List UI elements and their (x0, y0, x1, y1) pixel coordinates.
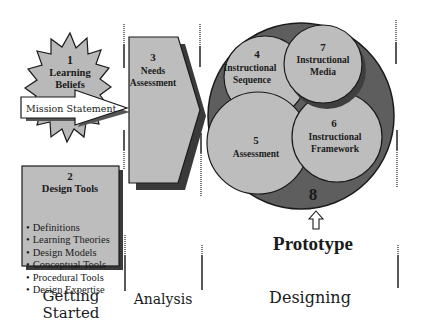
learning-beliefs-label-line1: Learning (49, 67, 91, 78)
instructional-media-label-line2: Media (310, 67, 336, 77)
phase-label-designing: Designing (260, 288, 360, 307)
instructional-sequence-number: 4 (254, 48, 260, 60)
design-tools-list: Definitions Learning Theories Design Mod… (26, 222, 110, 296)
phase-getting-started-line2: Started (28, 305, 114, 322)
design-tools-item: Learning Theories (26, 234, 110, 246)
phase-label-analysis: Analysis (128, 291, 198, 307)
instructional-framework-label-line2: Framework (311, 144, 360, 154)
assessment-label: Assessment (233, 149, 280, 159)
learning-beliefs-number: 1 (67, 53, 73, 67)
prototype-up-arrow (309, 211, 323, 229)
design-tools-item: Definitions (26, 222, 110, 234)
prototype-label: Prototype (273, 233, 353, 254)
needs-assessment-label-line2: Assessment (130, 78, 177, 88)
designing-whole-number: 8 (309, 185, 318, 204)
instructional-sequence-label-line2: Sequence (233, 75, 271, 85)
phase-getting-started-line1: Getting (28, 288, 114, 305)
design-tools-item: Procedural Tools (26, 272, 110, 284)
assessment-number: 5 (253, 134, 259, 146)
learning-beliefs-label-line2: Beliefs (55, 79, 85, 90)
learning-beliefs-starburst: 1 Learning Beliefs (25, 33, 111, 142)
instructional-framework-number: 6 (331, 117, 337, 129)
needs-assessment-label-line1: Needs (141, 66, 166, 76)
phase-label-getting-started: Getting Started (28, 288, 114, 322)
needs-assessment-shape: 3 Needs Assessment (129, 37, 206, 190)
instructional-media-label-line1: Instructional (297, 55, 350, 65)
design-tools-item: Design Models (26, 247, 110, 259)
design-tools-title: Design Tools (42, 183, 98, 194)
design-tools-number: 2 (67, 170, 73, 182)
needs-assessment-number: 3 (150, 51, 156, 63)
instructional-media-number: 7 (320, 41, 326, 53)
mission-statement-label: Mission Statement (26, 103, 117, 114)
design-tools-item: Conceptual Tools (26, 259, 110, 271)
instructional-framework-label-line1: Instructional (309, 132, 362, 142)
instructional-sequence-label-line1: Instructional (224, 63, 277, 73)
